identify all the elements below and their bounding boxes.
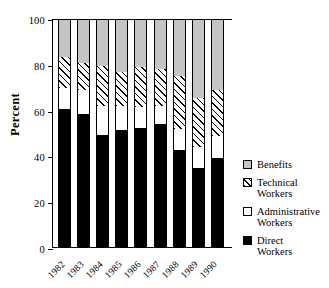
technical-workers-swatch — [243, 178, 252, 187]
y-axis-tick-label: 40 — [34, 153, 45, 164]
bar-1989[interactable] — [192, 19, 205, 248]
bar-segment-direct-workers — [173, 150, 186, 248]
y-axis-tick-label: 20 — [34, 199, 45, 210]
bar-1982[interactable] — [58, 19, 71, 248]
administrative-workers-swatch — [243, 207, 252, 216]
bar-segment-direct-workers — [154, 124, 167, 248]
bar-1988[interactable] — [173, 19, 186, 248]
x-axis-label-1988: 1988 — [160, 259, 181, 280]
bar-segment-technical-workers — [211, 90, 224, 136]
bar-segment-technical-workers — [77, 63, 90, 90]
legend-item-label: Direct Workers — [257, 235, 292, 258]
bar-segment-administrative-workers — [96, 106, 109, 135]
benefits-swatch — [243, 160, 252, 169]
bar-segment-benefits — [115, 19, 128, 72]
y-axis-tick-label: 0 — [40, 245, 45, 256]
legend-item[interactable]: Benefits — [243, 159, 329, 171]
legend-item-label: Technical Workers — [257, 177, 298, 200]
bar-segment-direct-workers — [115, 130, 128, 248]
bar-segment-direct-workers — [96, 135, 109, 248]
bar-segment-administrative-workers — [154, 106, 167, 124]
y-axis-tick-label: 60 — [34, 107, 45, 118]
bar-segment-administrative-workers — [77, 90, 90, 114]
chart-legend: BenefitsTechnical WorkersAdministrative … — [243, 159, 329, 264]
bar-segment-technical-workers — [154, 69, 167, 106]
y-axis-tick: 0 — [48, 249, 53, 250]
bars-layer — [52, 19, 232, 248]
legend-item[interactable]: Direct Workers — [243, 235, 329, 258]
y-axis-tick-label: 80 — [34, 62, 45, 73]
y-axis-title-label: Percent — [8, 93, 23, 136]
x-axis-label-1986: 1986 — [122, 259, 143, 280]
x-axis-label-1984: 1984 — [84, 259, 105, 280]
y-axis-tick-label: 100 — [29, 16, 45, 27]
bar-segment-benefits — [134, 19, 147, 67]
bar-1985[interactable] — [115, 19, 128, 248]
x-axis-label-1989: 1989 — [179, 259, 200, 280]
bar-segment-benefits — [154, 19, 167, 69]
bar-segment-technical-workers — [96, 66, 109, 106]
bar-segment-technical-workers — [173, 76, 186, 129]
bar-segment-administrative-workers — [58, 88, 71, 110]
bar-segment-technical-workers — [134, 67, 147, 107]
bar-1983[interactable] — [77, 19, 90, 248]
bar-segment-benefits — [211, 19, 224, 90]
legend-item-label: Benefits — [257, 159, 292, 171]
x-axis-label-1987: 1987 — [141, 259, 162, 280]
x-axis-label-1990: 1990 — [198, 259, 219, 280]
x-axis-label-1983: 1983 — [64, 259, 85, 280]
legend-item-label: Administrative Workers — [257, 206, 320, 229]
bar-segment-administrative-workers — [211, 136, 224, 158]
bar-1987[interactable] — [154, 19, 167, 248]
legend-item[interactable]: Technical Workers — [243, 177, 329, 200]
bar-1990[interactable] — [211, 19, 224, 248]
bar-segment-administrative-workers — [173, 129, 186, 150]
bar-segment-benefits — [77, 19, 90, 63]
bar-segment-benefits — [96, 19, 109, 66]
y-axis-title: Percent — [7, 0, 23, 229]
bar-1984[interactable] — [96, 19, 109, 248]
bar-segment-benefits — [192, 19, 205, 98]
x-axis-label-1982: 1982 — [45, 259, 66, 280]
legend-item[interactable]: Administrative Workers — [243, 206, 329, 229]
bar-segment-benefits — [173, 19, 186, 76]
bar-segment-direct-workers — [192, 168, 205, 248]
bar-segment-direct-workers — [77, 114, 90, 248]
bar-segment-direct-workers — [134, 128, 147, 248]
bar-segment-administrative-workers — [192, 147, 205, 168]
bar-segment-direct-workers — [211, 158, 224, 248]
bar-segment-administrative-workers — [134, 107, 147, 128]
bar-segment-administrative-workers — [115, 106, 128, 130]
direct-workers-swatch — [243, 236, 252, 245]
bar-segment-direct-workers — [58, 109, 71, 248]
bar-segment-benefits — [58, 19, 71, 57]
x-axis-label-1985: 1985 — [103, 259, 124, 280]
bar-segment-technical-workers — [192, 98, 205, 147]
bar-segment-technical-workers — [58, 57, 71, 88]
bar-1986[interactable] — [134, 19, 147, 248]
bar-segment-technical-workers — [115, 72, 128, 106]
stacked-bar-chart: Percent 020406080100 BenefitsTechnical W… — [0, 0, 329, 288]
